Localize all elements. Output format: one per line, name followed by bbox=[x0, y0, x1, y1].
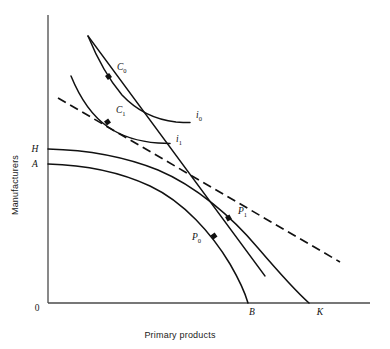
indifference-curve-i0 bbox=[88, 36, 190, 123]
tick-label-k: K bbox=[316, 307, 324, 317]
point-markers-group bbox=[104, 73, 232, 239]
origin-label: 0 bbox=[35, 303, 40, 313]
label-p0: P0 bbox=[191, 232, 201, 244]
label-c0: C0 bbox=[117, 62, 127, 74]
label-c1: C1 bbox=[116, 105, 126, 117]
label-i1: i1 bbox=[176, 134, 182, 146]
axis-group bbox=[48, 15, 370, 303]
transformation-curve-oab bbox=[48, 164, 248, 303]
tick-label-h: H bbox=[31, 144, 40, 154]
tick-label-a: A bbox=[31, 159, 38, 169]
y-axis-title: Manufacturers bbox=[10, 155, 20, 215]
label-i0: i0 bbox=[196, 110, 202, 122]
axis-tick-label-group: H A B K 0 bbox=[31, 144, 324, 317]
tick-label-b: B bbox=[249, 307, 255, 317]
x-axis-title: Primary products bbox=[144, 330, 216, 340]
plot-canvas: C0 C1 i0 i1 P1 P0 H A B K 0 Primary prod… bbox=[0, 0, 390, 349]
transformation-curve-ohk bbox=[48, 149, 309, 303]
economics-diagram-figure: C0 C1 i0 i1 P1 P0 H A B K 0 Primary prod… bbox=[0, 0, 390, 349]
axis-title-group: Primary products Manufacturers bbox=[10, 155, 216, 340]
